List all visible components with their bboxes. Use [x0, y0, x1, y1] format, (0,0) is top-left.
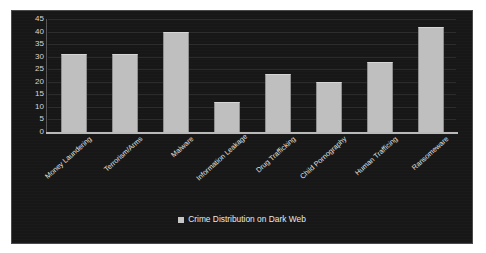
x-label-malware: Malware: [143, 135, 194, 182]
bar-malware: [163, 32, 189, 132]
y-axis-tick-10: 10: [14, 103, 44, 111]
bar-money-laundering: [61, 54, 87, 132]
gridline-10: [48, 107, 456, 108]
y-axis-tick-25: 25: [14, 65, 44, 73]
gridline-40: [48, 32, 456, 33]
x-label-human-trafficing: Human Trafficing: [347, 135, 398, 182]
y-axis-tick-15: 15: [14, 90, 44, 98]
chart-panel: 454035302520151050 Money LaunderingTerro…: [11, 10, 473, 244]
y-axis-tick-30: 30: [14, 53, 44, 61]
y-axis-tick-35: 35: [14, 40, 44, 48]
bar-information-leakage: [214, 102, 240, 132]
x-label-child-pornography: Child Pornography: [296, 135, 347, 182]
bar-drug-trafficking: [265, 74, 291, 132]
y-axis-tick-5: 5: [14, 115, 44, 123]
x-label-drug-trafficking: Drug Trafficking: [245, 135, 296, 182]
legend-series-label: Crime Distribution on Dark Web: [188, 215, 306, 224]
y-axis-tick-40: 40: [14, 28, 44, 36]
x-label-money-laundering: Money Laundering: [41, 135, 92, 182]
bar-terrorism-arms: [112, 54, 138, 132]
gridline-30: [48, 57, 456, 58]
y-axis-tick-20: 20: [14, 78, 44, 86]
x-label-ransomeware: Ransomeware: [398, 135, 449, 182]
plot-area: [48, 19, 456, 132]
gridline-15: [48, 94, 456, 95]
x-axis-line: [46, 132, 458, 134]
gridline-20: [48, 82, 456, 83]
gridline-25: [48, 69, 456, 70]
x-label-terrorism-arms: Terrorism/Arms: [92, 135, 143, 182]
gridline-45: [48, 19, 456, 20]
x-axis-category-labels: Money LaunderingTerrorism/ArmsMalwareInf…: [48, 135, 458, 193]
y-axis-tick-45: 45: [14, 15, 44, 23]
gridline-35: [48, 44, 456, 45]
gridline-5: [48, 119, 456, 120]
bar-human-trafficing: [367, 62, 393, 132]
x-label-information-leakage: Information Leakage: [194, 135, 245, 182]
y-axis-line: [46, 19, 47, 133]
y-axis-tick-0: 0: [14, 128, 44, 136]
bar-child-pornography: [316, 82, 342, 132]
bar-ransomeware: [418, 27, 444, 132]
chart-legend: Crime Distribution on Dark Web: [12, 215, 472, 224]
y-axis-tick-labels: 454035302520151050: [12, 19, 44, 132]
legend-square-marker: [178, 217, 184, 223]
